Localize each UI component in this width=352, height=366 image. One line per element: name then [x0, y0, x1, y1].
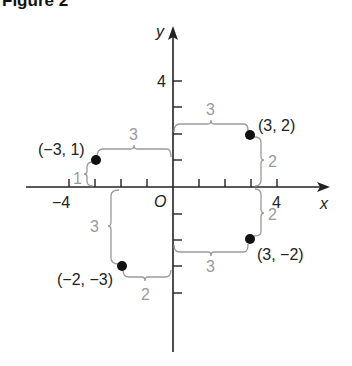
brace-h-point1: [97, 145, 171, 157]
point-label-3-2: (3, 2): [258, 117, 295, 134]
x-tick-label-neg4: −4: [52, 194, 70, 211]
point-label-3-neg2: (3, −2): [257, 246, 304, 263]
origin-label: O: [154, 193, 166, 210]
brace-h-point2: [174, 120, 248, 132]
brace-v-point3: [108, 190, 119, 264]
brace-h-point3: [123, 270, 171, 281]
y-tick-label-4: 4: [157, 73, 166, 90]
point-neg3-1: [91, 155, 101, 165]
point-neg2-neg3: [117, 261, 127, 271]
brace-v-point1: [84, 162, 93, 186]
coordinate-plane: y x O −4 4 4 3 1 3 2 3 2 2 3 (−3, 1) (3,…: [0, 0, 352, 366]
y-axis-label: y: [155, 23, 165, 40]
point-3-2: [245, 130, 255, 140]
brace-label-v-point1: 1: [73, 170, 82, 187]
brace-label-h-point2: 3: [206, 101, 215, 118]
x-axis-label: x: [319, 195, 329, 212]
point-label-neg3-1: (−3, 1): [38, 141, 85, 158]
point-label-neg2-neg3: (−2, −3): [57, 271, 113, 288]
brace-label-v-point3: 3: [90, 218, 99, 235]
brace-label-h-point1: 3: [129, 126, 138, 143]
brace-label-h-point3: 2: [141, 286, 150, 303]
brace-label-h-point4: 3: [206, 258, 215, 275]
distance-braces: [84, 120, 264, 281]
brace-v-point2: [254, 137, 264, 186]
brace-label-v-point4: 2: [268, 206, 277, 223]
brace-label-v-point2: 2: [268, 153, 277, 170]
brace-h-point4: [174, 244, 248, 256]
brace-v-point4: [254, 189, 264, 236]
point-3-neg2: [245, 234, 255, 244]
